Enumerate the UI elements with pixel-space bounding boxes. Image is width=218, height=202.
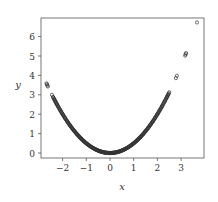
scatter-chart: −2−10123 0123456 x y bbox=[0, 0, 218, 202]
y-axis: 0123456 bbox=[29, 32, 41, 158]
x-tick-label: 3 bbox=[178, 163, 184, 173]
plot-frame bbox=[41, 18, 204, 158]
x-tick-label: 1 bbox=[131, 163, 137, 173]
y-tick-label: 6 bbox=[29, 32, 35, 42]
y-tick-label: 2 bbox=[29, 110, 35, 120]
y-tick-label: 1 bbox=[29, 129, 35, 139]
x-axis-label: x bbox=[119, 181, 125, 192]
x-tick-label: −1 bbox=[80, 163, 93, 173]
x-tick-label: 2 bbox=[155, 163, 161, 173]
data-points bbox=[45, 21, 199, 155]
y-tick-label: 5 bbox=[29, 52, 35, 62]
x-tick-label: −2 bbox=[56, 163, 69, 173]
y-tick-label: 4 bbox=[29, 71, 35, 81]
x-axis: −2−10123 bbox=[56, 158, 184, 173]
y-tick-label: 0 bbox=[29, 149, 35, 159]
y-tick-label: 3 bbox=[29, 90, 35, 100]
plot-border bbox=[41, 18, 204, 158]
y-axis-label: y bbox=[14, 79, 21, 90]
data-point bbox=[195, 21, 198, 24]
x-tick-label: 0 bbox=[107, 163, 113, 173]
